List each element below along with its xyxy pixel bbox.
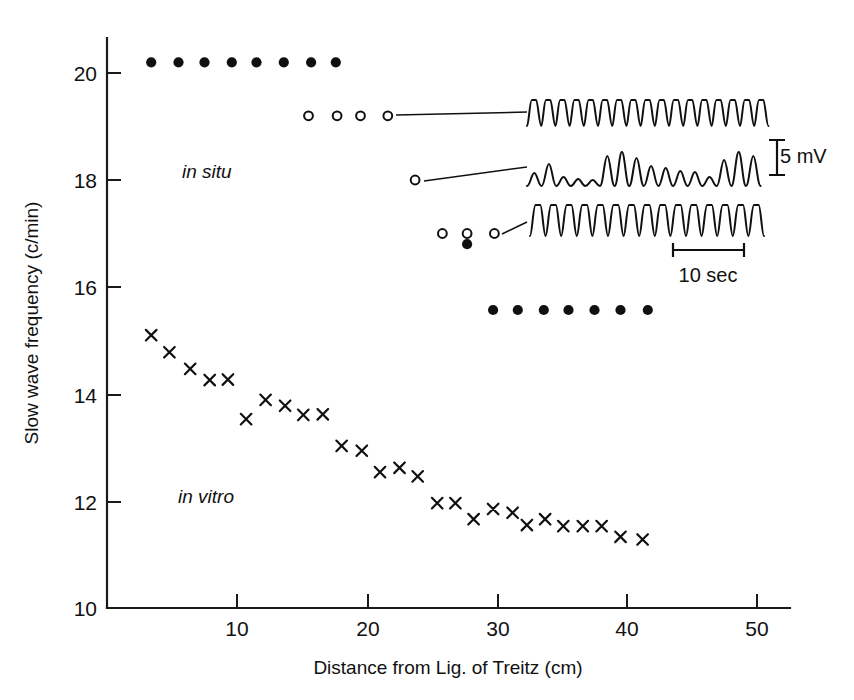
data-point-open-circle [463,229,472,238]
data-point-cross [260,395,271,406]
y-ticks-group: 20 18 16 14 12 10 [74,62,121,620]
data-point-cross [468,514,479,525]
y-tick-label-16: 16 [74,276,97,299]
data-point-cross [318,409,329,420]
data-markers-layer [146,57,653,545]
y-tick-label-18: 18 [74,169,97,192]
data-point-cross [507,507,518,518]
series-3 [438,229,499,238]
data-point-filled-circle [306,57,316,67]
y-axis-title: Slow wave frequency (c/min) [21,202,42,445]
time-scale-bar: 10 sec [673,243,744,286]
leader-line-middle [424,167,527,181]
data-point-cross [540,514,551,525]
data-point-filled-circle [199,57,209,67]
data-point-open-circle [333,111,342,120]
data-point-cross [223,374,234,385]
data-point-filled-circle [227,57,237,67]
data-point-cross [450,498,461,509]
leader-line-top [396,112,527,115]
waveform-trace-middle [527,152,761,186]
data-point-cross [412,471,423,482]
series-5 [488,305,653,315]
data-point-filled-circle [462,239,472,249]
data-point-filled-circle [279,57,289,67]
data-point-cross [280,400,291,411]
series-0 [146,57,341,67]
y-tick-label-14: 14 [74,384,98,407]
annotation-in-situ: in situ [182,161,232,182]
waveform-trace-bottom [530,205,764,236]
series-6 [146,330,648,545]
data-point-open-circle [304,111,313,120]
data-point-cross [375,467,386,478]
data-point-cross [241,414,252,425]
data-point-cross [432,498,443,509]
leader-line-bottom [502,222,527,234]
x-axis-title: Distance from Lig. of Treitz (cm) [313,657,582,678]
figure-container: 20 18 16 14 12 10 10 20 30 40 50 Distanc… [0,0,854,700]
waveform-trace-top [527,100,768,126]
data-point-filled-circle [488,305,498,315]
data-point-cross [185,364,196,375]
voltage-scale-label: 5 mV [780,145,827,167]
data-point-filled-circle [331,57,341,67]
data-point-filled-circle [173,57,183,67]
data-point-filled-circle [563,305,573,315]
series-4 [462,239,472,249]
annotation-in-vitro: in vitro [178,486,234,507]
x-tick-label-50: 50 [745,617,768,640]
data-point-cross [146,330,157,341]
data-point-filled-circle [513,305,523,315]
y-tick-label-20: 20 [74,62,97,85]
data-point-cross [394,463,405,474]
data-point-filled-circle [539,305,549,315]
data-point-filled-circle [615,305,625,315]
slow-wave-frequency-scatter-plot: 20 18 16 14 12 10 10 20 30 40 50 Distanc… [0,0,854,700]
data-point-cross [596,521,607,532]
data-point-open-circle [411,176,420,185]
data-point-filled-circle [251,57,261,67]
x-tick-label-30: 30 [486,617,509,640]
x-tick-label-20: 20 [356,617,379,640]
data-point-cross [336,441,347,452]
data-point-cross [164,347,175,358]
data-point-cross [578,521,589,532]
data-point-open-circle [383,111,392,120]
series-1 [304,111,392,120]
x-tick-label-40: 40 [615,617,638,640]
data-point-cross [615,532,626,543]
data-point-open-circle [356,111,365,120]
data-point-cross [204,375,215,386]
x-ticks-group: 10 20 30 40 50 [225,594,768,640]
axes-group [107,38,790,608]
data-point-cross [637,534,648,545]
y-tick-label-12: 12 [74,491,97,514]
x-tick-label-10: 10 [225,617,248,640]
data-point-cross [357,445,368,456]
data-point-filled-circle [146,57,156,67]
data-point-cross [298,410,309,421]
series-2 [411,176,420,185]
data-point-cross [488,504,499,515]
data-point-open-circle [490,229,499,238]
data-point-filled-circle [589,305,599,315]
data-point-open-circle [438,229,447,238]
time-scale-label: 10 sec [679,264,738,286]
y-tick-label-10: 10 [74,597,97,620]
voltage-scale-bar: 5 mV [769,140,827,175]
data-point-cross [522,520,533,531]
data-point-filled-circle [643,305,653,315]
leader-lines-group [396,112,527,234]
data-point-cross [558,521,569,532]
inset-traces-layer [527,100,768,236]
